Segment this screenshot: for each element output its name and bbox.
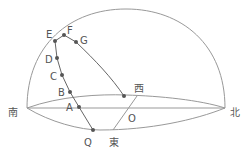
point-west: [122, 94, 126, 98]
label-north: 北: [230, 107, 240, 118]
points: [53, 33, 126, 132]
point-d: [55, 56, 59, 60]
point-e: [53, 39, 57, 43]
point-a: [77, 105, 81, 109]
sun-path: [55, 35, 124, 130]
point-g: [74, 40, 78, 44]
label-d: D: [45, 54, 53, 65]
label-west: 西: [134, 83, 144, 94]
point-f: [62, 33, 66, 37]
label-b: B: [58, 87, 65, 98]
point-q: [91, 128, 95, 132]
horizon-plane-far: [27, 95, 225, 108]
point-b: [68, 90, 72, 94]
label-q: Q: [84, 137, 92, 148]
label-o: O: [128, 113, 136, 124]
label-f: F: [67, 25, 73, 36]
label-c: C: [50, 71, 57, 82]
celestial-hemisphere-diagram: A B C D E F G Q O 南 北 東 西: [0, 0, 252, 156]
label-g: G: [80, 35, 88, 46]
point-c: [60, 73, 64, 77]
label-a: A: [66, 102, 73, 113]
label-south: 南: [8, 106, 18, 118]
label-e: E: [46, 29, 52, 40]
label-east: 東: [109, 136, 119, 148]
